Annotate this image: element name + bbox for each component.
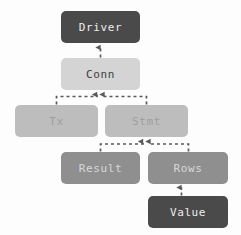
edge-rows-to-stmt bbox=[151, 142, 189, 152]
node-rows[interactable]: Rows bbox=[148, 152, 228, 184]
node-result[interactable]: Result bbox=[61, 152, 140, 184]
node-value-label: Value bbox=[170, 207, 206, 218]
node-driver[interactable]: Driver bbox=[61, 11, 140, 43]
node-result-label: Result bbox=[79, 163, 122, 174]
node-stmt-label: Stmt bbox=[132, 116, 161, 127]
node-value[interactable]: Value bbox=[148, 196, 228, 228]
node-conn[interactable]: Conn bbox=[61, 58, 140, 90]
node-tx-label: Tx bbox=[49, 116, 63, 127]
node-driver-label: Driver bbox=[79, 22, 122, 33]
node-conn-label: Conn bbox=[86, 69, 115, 80]
edge-result-to-stmt bbox=[101, 142, 144, 152]
node-stmt[interactable]: Stmt bbox=[105, 105, 188, 137]
node-tx[interactable]: Tx bbox=[15, 105, 98, 137]
diagram-canvas: Driver Conn Tx Stmt Result Rows Value bbox=[0, 0, 241, 235]
edge-tx-to-conn bbox=[57, 95, 98, 105]
node-rows-label: Rows bbox=[174, 163, 203, 174]
edge-stmt-to-conn bbox=[105, 95, 147, 105]
